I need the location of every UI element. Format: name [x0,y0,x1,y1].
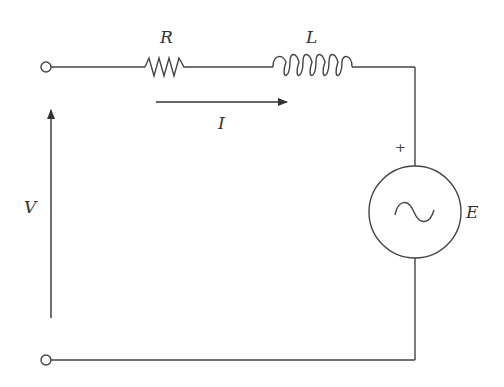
source-label: E [465,202,479,222]
sine-wave-icon [395,203,434,222]
resistor-icon [145,58,188,76]
inductor-icon [273,55,352,76]
polarity-plus-label: + [395,140,406,155]
circuit-diagram: R L I V E + [0,0,504,387]
top-left-terminal-icon [41,62,51,72]
bottom-left-terminal-icon [41,355,51,365]
voltage-label: V [24,197,38,217]
ac-source-icon [369,166,461,258]
current-label: I [217,113,225,133]
resistor-label: R [159,27,173,47]
inductor-label: L [305,27,317,47]
circuit-svg: R L I V E + [0,0,504,387]
